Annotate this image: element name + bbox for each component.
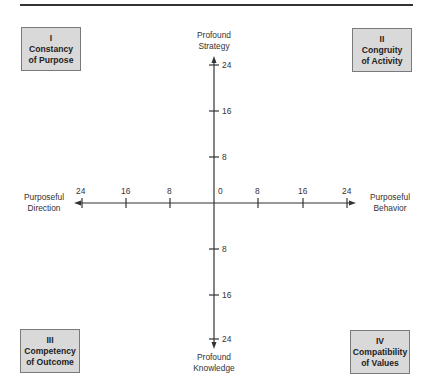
tick-label-h-right-24: 24 — [342, 186, 351, 196]
tick-label-h-right-16: 16 — [298, 186, 307, 196]
quadrant-title: Constancy — [29, 44, 73, 55]
axis-label-line: Purposeful — [360, 192, 420, 203]
arrow-down-icon — [212, 342, 217, 349]
tick-label-v-down-24: 24 — [222, 334, 231, 344]
axis-label-line: Behavior — [360, 203, 420, 214]
quadrant-box-iii: III Competency of Outcome — [20, 329, 80, 373]
arrow-up-icon — [212, 56, 217, 63]
tick-label-v-down-8: 8 — [222, 244, 227, 254]
tick-label-h-left-16: 16 — [121, 186, 130, 196]
axis-label-bottom: Profound Knowledge — [184, 352, 244, 374]
quadrant-numeral: III — [46, 335, 53, 346]
tick-label-v-down-16: 16 — [222, 290, 231, 300]
axis-label-right: Purposeful Behavior — [360, 192, 420, 214]
quadrant-subtitle: of Outcome — [26, 357, 74, 368]
quadrant-numeral: I — [50, 33, 52, 44]
axis-label-top: Profound Strategy — [184, 30, 244, 52]
quadrant-box-i: I Constancy of Purpose — [21, 27, 81, 71]
quadrant-numeral: IV — [376, 336, 384, 347]
tick-label-v-up-16: 16 — [222, 106, 231, 116]
arrow-right-icon — [349, 201, 356, 206]
axis-label-line: Knowledge — [184, 363, 244, 374]
arrow-left-icon — [74, 201, 81, 206]
quadrant-subtitle: of Activity — [361, 56, 402, 67]
axis-label-left: Purposeful Direction — [14, 192, 74, 214]
axis-label-line: Strategy — [184, 41, 244, 52]
quadrant-title: Compatibility — [353, 347, 407, 358]
quadrant-title: Competency — [24, 346, 76, 357]
quadrant-box-ii: II Congruity of Activity — [352, 28, 412, 72]
quadrant-title: Congruity — [362, 45, 403, 56]
tick-label-h-right-8: 8 — [255, 186, 260, 196]
quadrant-subtitle: of Purpose — [29, 55, 74, 66]
quadrant-numeral: II — [380, 34, 385, 45]
axis-label-line: Profound — [184, 30, 244, 41]
axis-label-line: Profound — [184, 352, 244, 363]
axis-label-line: Purposeful — [14, 192, 74, 203]
tick-label-h-left-8: 8 — [167, 186, 172, 196]
quadrant-subtitle: of Values — [361, 358, 399, 369]
tick-label-v-up-8: 8 — [222, 152, 227, 162]
quadrant-box-iv: IV Compatibility of Values — [350, 330, 410, 374]
tick-label-h-left-24: 24 — [76, 186, 85, 196]
tick-label-v-up-24: 24 — [222, 60, 231, 70]
axis-label-line: Direction — [14, 203, 74, 214]
tick-label-origin: 0 — [218, 186, 223, 196]
